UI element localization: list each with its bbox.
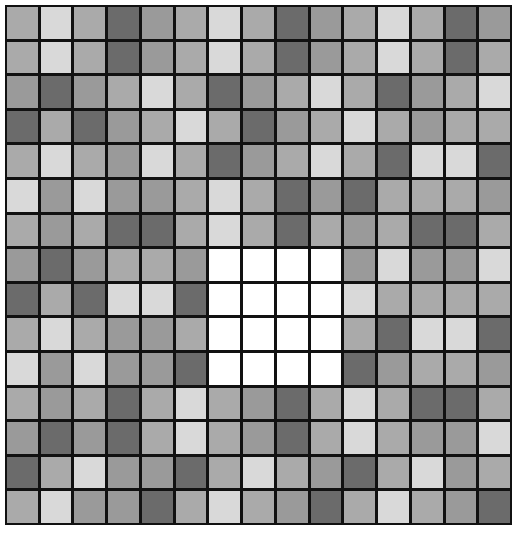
grid-cell-r3-c6[interactable] (209, 111, 240, 143)
grid-cell-r1-c5[interactable] (176, 42, 207, 74)
grid-cell-r6-c4[interactable] (142, 215, 173, 247)
grid-cell-r7-c12[interactable] (412, 249, 443, 281)
grid-cell-r11-c14[interactable] (479, 388, 510, 420)
grid-cell-r5-c14[interactable] (479, 180, 510, 212)
grid-cell-r7-c14[interactable] (479, 249, 510, 281)
grid-cell-r11-c8[interactable] (277, 388, 308, 420)
grid-cell-r1-c2[interactable] (74, 42, 105, 74)
grid-cell-r7-c13[interactable] (446, 249, 477, 281)
grid-cell-r2-c14[interactable] (479, 76, 510, 108)
grid-cell-r5-c3[interactable] (108, 180, 139, 212)
grid-cell-r4-c7[interactable] (243, 145, 274, 177)
grid-cell-r6-c14[interactable] (479, 215, 510, 247)
grid-cell-r9-c14[interactable] (479, 318, 510, 350)
grid-cell-r9-c0[interactable] (7, 318, 38, 350)
grid-cell-r10-c1[interactable] (41, 353, 72, 385)
grid-cell-r12-c6[interactable] (209, 422, 240, 454)
grid-cell-r0-c8[interactable] (277, 7, 308, 39)
grid-cell-r8-c6[interactable] (209, 284, 240, 316)
grid-cell-r11-c4[interactable] (142, 388, 173, 420)
grid-cell-r8-c4[interactable] (142, 284, 173, 316)
grid-cell-r7-c2[interactable] (74, 249, 105, 281)
grid-cell-r3-c10[interactable] (344, 111, 375, 143)
grid-cell-r11-c7[interactable] (243, 388, 274, 420)
grid-cell-r6-c6[interactable] (209, 215, 240, 247)
grid-cell-r10-c5[interactable] (176, 353, 207, 385)
grid-cell-r2-c5[interactable] (176, 76, 207, 108)
grid-cell-r0-c11[interactable] (378, 7, 409, 39)
grid-cell-r9-c10[interactable] (344, 318, 375, 350)
grid-cell-r0-c14[interactable] (479, 7, 510, 39)
grid-cell-r5-c4[interactable] (142, 180, 173, 212)
grid-cell-r3-c2[interactable] (74, 111, 105, 143)
grid-cell-r1-c4[interactable] (142, 42, 173, 74)
grid-cell-r4-c4[interactable] (142, 145, 173, 177)
grid-cell-r13-c0[interactable] (7, 457, 38, 489)
grid-cell-r4-c8[interactable] (277, 145, 308, 177)
grid-cell-r11-c6[interactable] (209, 388, 240, 420)
grid-cell-r11-c2[interactable] (74, 388, 105, 420)
grid-cell-r11-c12[interactable] (412, 388, 443, 420)
grid-cell-r4-c5[interactable] (176, 145, 207, 177)
grid-cell-r7-c7[interactable] (243, 249, 274, 281)
grid-cell-r12-c7[interactable] (243, 422, 274, 454)
grid-cell-r10-c9[interactable] (311, 353, 342, 385)
grid-cell-r12-c3[interactable] (108, 422, 139, 454)
grid-cell-r1-c9[interactable] (311, 42, 342, 74)
grid-cell-r2-c1[interactable] (41, 76, 72, 108)
grid-cell-r8-c5[interactable] (176, 284, 207, 316)
grid-cell-r14-c13[interactable] (446, 491, 477, 523)
grid-cell-r4-c1[interactable] (41, 145, 72, 177)
grid-cell-r10-c8[interactable] (277, 353, 308, 385)
grid-cell-r7-c4[interactable] (142, 249, 173, 281)
grid-cell-r9-c12[interactable] (412, 318, 443, 350)
grid-cell-r8-c11[interactable] (378, 284, 409, 316)
grid-cell-r3-c9[interactable] (311, 111, 342, 143)
grid-cell-r4-c13[interactable] (446, 145, 477, 177)
grid-cell-r3-c7[interactable] (243, 111, 274, 143)
grid-cell-r3-c5[interactable] (176, 111, 207, 143)
grid-cell-r9-c13[interactable] (446, 318, 477, 350)
grid-cell-r6-c7[interactable] (243, 215, 274, 247)
grid-cell-r6-c12[interactable] (412, 215, 443, 247)
grid-cell-r8-c7[interactable] (243, 284, 274, 316)
grid-cell-r12-c1[interactable] (41, 422, 72, 454)
grid-cell-r4-c10[interactable] (344, 145, 375, 177)
grid-cell-r4-c2[interactable] (74, 145, 105, 177)
grid-cell-r14-c14[interactable] (479, 491, 510, 523)
grid-cell-r10-c7[interactable] (243, 353, 274, 385)
grid-cell-r13-c4[interactable] (142, 457, 173, 489)
grid-cell-r2-c11[interactable] (378, 76, 409, 108)
grid-cell-r0-c4[interactable] (142, 7, 173, 39)
grid-cell-r8-c3[interactable] (108, 284, 139, 316)
grid-cell-r3-c13[interactable] (446, 111, 477, 143)
grid-cell-r3-c11[interactable] (378, 111, 409, 143)
grid-cell-r1-c1[interactable] (41, 42, 72, 74)
grid-cell-r10-c6[interactable] (209, 353, 240, 385)
grid-cell-r8-c10[interactable] (344, 284, 375, 316)
grid-cell-r4-c0[interactable] (7, 145, 38, 177)
grid-cell-r13-c8[interactable] (277, 457, 308, 489)
grid-cell-r12-c2[interactable] (74, 422, 105, 454)
grid-cell-r10-c4[interactable] (142, 353, 173, 385)
grid-cell-r5-c8[interactable] (277, 180, 308, 212)
grid-cell-r11-c10[interactable] (344, 388, 375, 420)
grid-cell-r10-c10[interactable] (344, 353, 375, 385)
grid-cell-r9-c9[interactable] (311, 318, 342, 350)
grid-cell-r2-c9[interactable] (311, 76, 342, 108)
grid-cell-r6-c9[interactable] (311, 215, 342, 247)
grid-cell-r12-c0[interactable] (7, 422, 38, 454)
grid-cell-r11-c1[interactable] (41, 388, 72, 420)
grid-cell-r13-c12[interactable] (412, 457, 443, 489)
grid-cell-r13-c14[interactable] (479, 457, 510, 489)
grid-cell-r9-c2[interactable] (74, 318, 105, 350)
grid-cell-r4-c6[interactable] (209, 145, 240, 177)
grid-cell-r10-c14[interactable] (479, 353, 510, 385)
grid-cell-r8-c9[interactable] (311, 284, 342, 316)
grid-cell-r10-c13[interactable] (446, 353, 477, 385)
grid-cell-r12-c11[interactable] (378, 422, 409, 454)
grid-cell-r12-c14[interactable] (479, 422, 510, 454)
grid-cell-r2-c3[interactable] (108, 76, 139, 108)
grid-cell-r7-c8[interactable] (277, 249, 308, 281)
grid-cell-r3-c8[interactable] (277, 111, 308, 143)
